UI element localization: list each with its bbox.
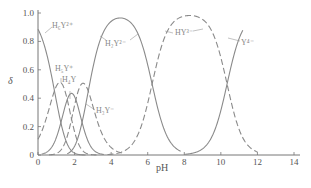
- species-label-y: Y⁴⁻: [241, 38, 254, 47]
- x-tick-label: 10: [216, 157, 226, 167]
- x-tick-label: 4: [109, 157, 114, 167]
- x-axis-title: pH: [156, 162, 168, 173]
- species-label-h2y: H₂Y²⁻: [105, 39, 126, 48]
- label-hy: HY³⁻: [165, 28, 203, 37]
- label-h3y: H₃Y⁻: [86, 104, 114, 115]
- y-axis-title: δ: [8, 75, 13, 86]
- x-tick-label: 2: [72, 157, 77, 167]
- label-h6y: H₆Y²⁺: [45, 21, 73, 33]
- label-y: Y⁴⁻: [228, 38, 254, 47]
- distribution-chart: 02468101214 00.20.40.60.81.0 δ pH H₆Y²⁺ …: [0, 0, 311, 188]
- y-tick-label: 0.4: [23, 93, 35, 103]
- y-tick-label: 1.0: [23, 8, 35, 18]
- label-h2y: H₂Y²⁻: [100, 34, 138, 48]
- species-label-h5y: H₅Y⁺: [55, 64, 73, 73]
- y-tick-label: 0: [30, 150, 35, 160]
- curve-y4: [184, 30, 243, 154]
- y-tick-label: 0.8: [23, 36, 35, 46]
- curves: [38, 15, 257, 154]
- x-tick-label: 8: [182, 157, 187, 167]
- x-tick-label: 6: [145, 157, 150, 167]
- species-label-h3y: H₃Y⁻: [96, 106, 114, 115]
- species-label-h6y: H₆Y²⁺: [52, 21, 73, 30]
- x-tick-label: 12: [253, 157, 262, 167]
- species-label-h4y: H₄Y: [62, 75, 77, 84]
- y-tick-label: 0.2: [23, 122, 34, 132]
- y-tick-label: 0.6: [23, 65, 35, 75]
- label-h5y: H₅Y⁺: [55, 64, 73, 73]
- species-label-hy: HY³⁻: [175, 28, 193, 37]
- x-tick-label: 0: [36, 157, 41, 167]
- x-tick-label: 14: [290, 157, 300, 167]
